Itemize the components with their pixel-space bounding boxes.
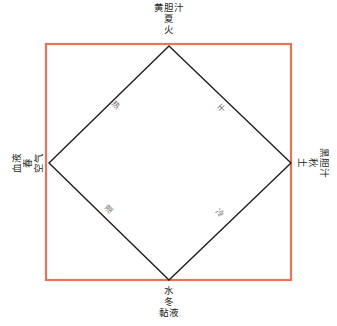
element-air: 空气 (33, 153, 44, 173)
humor-black-bile: 黑胆汁 (319, 148, 330, 178)
vertex-label-left: 血液 春 空气 (11, 151, 44, 175)
season-spring: 春 (22, 153, 33, 173)
element-fire: 火 (154, 24, 184, 35)
season-winter: 冬 (159, 296, 179, 307)
humor-diagram-canvas (0, 0, 337, 326)
vertex-label-right: 黑胆汁 秋 土 (297, 148, 330, 178)
element-water: 水 (159, 285, 179, 296)
diamond (49, 46, 291, 280)
element-earth: 土 (297, 148, 308, 178)
season-summer: 夏 (154, 13, 184, 24)
vertex-label-bottom: 水 冬 黏液 (159, 285, 179, 318)
humor-blood: 血液 (11, 153, 22, 173)
humor-yellow-bile: 黄胆汁 (154, 2, 184, 13)
outer-frame (46, 44, 291, 280)
season-autumn: 秋 (308, 148, 319, 178)
humor-phlegm: 黏液 (159, 307, 179, 318)
vertex-label-top: 黄胆汁 夏 火 (154, 2, 184, 35)
